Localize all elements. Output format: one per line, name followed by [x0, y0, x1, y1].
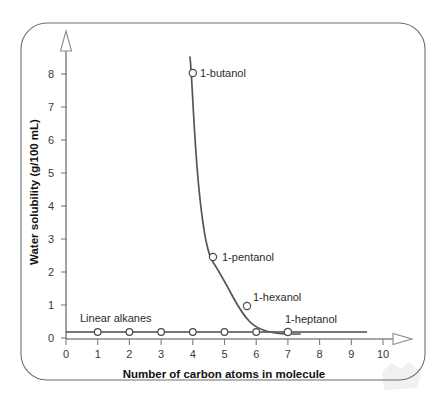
y-tick-label-3: 3 — [48, 233, 54, 245]
pentanol-marker — [209, 253, 216, 260]
pentanol-label: 1-pentanol — [222, 251, 274, 263]
x-tick-label-4: 4 — [190, 348, 196, 360]
alkane-marker-4 — [190, 329, 197, 336]
hexanol-marker — [243, 302, 250, 309]
alkane-marker-2 — [126, 329, 133, 336]
x-tick-label-0: 0 — [63, 348, 69, 360]
alkane-marker-1 — [94, 329, 101, 336]
y-tick-label-1: 1 — [48, 299, 54, 311]
x-tick-label-9: 9 — [348, 348, 354, 360]
figure-container: 8 7 6 5 4 3 2 1 0 Water solubility (g/10… — [0, 0, 442, 398]
heptanol-marker — [284, 328, 291, 335]
heptanol-label: 1-heptanol — [285, 313, 337, 325]
butanol-marker — [189, 69, 196, 76]
x-tick-label-10: 10 — [377, 348, 389, 360]
hexanol-label: 1-hexanol — [253, 291, 301, 303]
y-tick-label-8: 8 — [48, 68, 54, 80]
linear-alkanes-label: Linear alkanes — [80, 312, 152, 324]
alkane-marker-6 — [253, 329, 260, 336]
x-axis-title: Number of carbon atoms in molecule — [123, 368, 326, 380]
alkane-marker-5 — [221, 329, 228, 336]
x-tick-label-3: 3 — [158, 348, 164, 360]
y-tick-label-7: 7 — [48, 101, 54, 113]
x-tick-label-1: 1 — [95, 348, 101, 360]
x-tick-label-6: 6 — [253, 348, 259, 360]
y-tick-label-4: 4 — [48, 200, 54, 212]
y-tick-label-6: 6 — [48, 134, 54, 146]
x-tick-label-2: 2 — [126, 348, 132, 360]
x-tick-label-8: 8 — [317, 348, 323, 360]
y-tick-label-5: 5 — [48, 167, 54, 179]
butanol-label: 1-butanol — [200, 67, 246, 79]
y-axis-title: Water solubility (g/100 mL) — [28, 119, 40, 265]
alkane-marker-3 — [158, 329, 165, 336]
x-tick-label-5: 5 — [221, 348, 227, 360]
y-tick-label-2: 2 — [48, 266, 54, 278]
x-tick-label-7: 7 — [285, 348, 291, 360]
y-tick-label-0: 0 — [48, 332, 54, 344]
solubility-vs-carbon-chart: 8 7 6 5 4 3 2 1 0 Water solubility (g/10… — [0, 0, 442, 398]
